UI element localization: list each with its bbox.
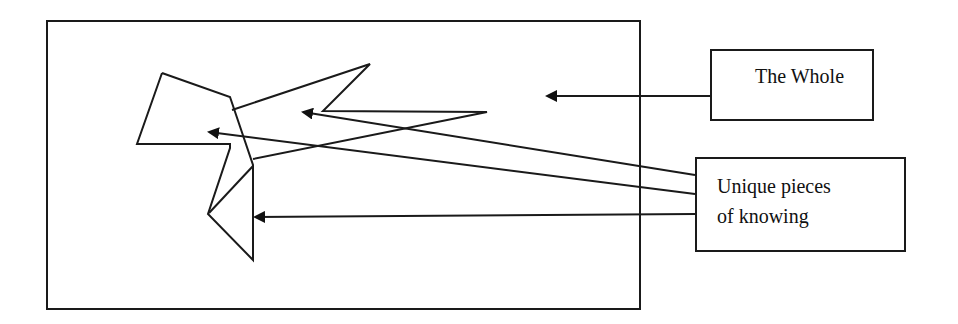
arrows-group: [209, 96, 710, 217]
the-whole-label-box: The Whole: [710, 49, 874, 121]
unique-pieces-label-line-2: of knowing: [717, 201, 809, 231]
arrow-piece-3: [255, 214, 695, 217]
whole-frame: [47, 21, 640, 309]
knowledge-piece-polygon: [137, 73, 253, 260]
arrow-piece-1: [303, 112, 695, 175]
knowledge-piece-star-arm: [232, 64, 487, 159]
unique-pieces-label-box: Unique pieces of knowing: [695, 157, 906, 252]
unique-pieces-label-line-1: Unique pieces: [717, 171, 831, 201]
the-whole-label: The Whole: [755, 61, 844, 91]
